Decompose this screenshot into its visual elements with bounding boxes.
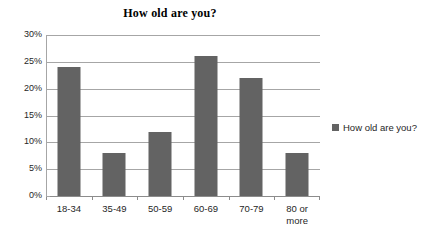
y-axis-tick-label: 30% <box>0 30 42 39</box>
bars-layer <box>46 35 320 196</box>
bar-slot <box>183 35 229 196</box>
x-axis-tick-mark <box>92 196 93 200</box>
x-axis-tick-mark <box>319 196 320 200</box>
y-axis-tick-label: 20% <box>0 84 42 93</box>
x-axis-category-label: 60-69 <box>183 203 229 215</box>
x-axis-category-label-line: more <box>274 215 320 227</box>
bar[interactable] <box>149 132 172 196</box>
x-axis-category-label: 35-49 <box>92 203 138 215</box>
y-axis-tick-mark <box>46 89 50 90</box>
x-axis-category-label: 80 ormore <box>274 203 320 227</box>
y-axis-tick-mark <box>46 35 50 36</box>
x-axis-tick-mark <box>137 196 138 200</box>
y-axis-tick-mark <box>46 169 50 170</box>
y-axis-tick-label: 25% <box>0 57 42 66</box>
y-axis-tick-mark <box>46 196 50 197</box>
legend-label: How old are you? <box>343 122 417 133</box>
bar-slot <box>46 35 92 196</box>
x-axis-tick-mark <box>183 196 184 200</box>
x-axis-category-label-line: 80 or <box>274 203 320 215</box>
y-axis-tick-label: 15% <box>0 111 42 120</box>
y-axis-tick-mark <box>46 62 50 63</box>
y-axis-tick-mark <box>46 116 50 117</box>
x-axis-tick-mark <box>229 196 230 200</box>
x-axis-category-label: 50-59 <box>137 203 183 215</box>
chart-container: How old are you? 0%5%10%15%20%25%30% 18-… <box>0 0 448 248</box>
x-axis-category-label-line: 60-69 <box>183 203 229 215</box>
bar[interactable] <box>103 153 126 196</box>
chart-title: How old are you? <box>0 6 340 21</box>
bar[interactable] <box>194 56 217 196</box>
bar-slot <box>229 35 275 196</box>
x-axis-category-label-line: 35-49 <box>92 203 138 215</box>
x-axis-category-label: 18-34 <box>46 203 92 215</box>
bar[interactable] <box>240 78 263 196</box>
x-axis-tick-mark <box>274 196 275 200</box>
x-axis-category-label-line: 70-79 <box>229 203 275 215</box>
chart-legend: How old are you? <box>332 122 417 133</box>
bar-slot <box>92 35 138 196</box>
y-axis-tick-label: 10% <box>0 137 42 146</box>
y-axis-tick-mark <box>46 142 50 143</box>
x-axis-category-label: 70-79 <box>229 203 275 215</box>
bar-slot <box>274 35 320 196</box>
x-axis-category-label-line: 50-59 <box>137 203 183 215</box>
x-axis-category-labels: 18-3435-4950-5960-6970-7980 ormore <box>46 203 320 243</box>
y-axis-tick-label: 0% <box>0 191 42 200</box>
bar[interactable] <box>57 67 80 196</box>
y-axis-tick-labels: 0%5%10%15%20%25%30% <box>0 35 42 196</box>
legend-swatch-icon <box>332 124 339 131</box>
x-axis-tick-marks <box>46 196 320 201</box>
y-axis-tick-label: 5% <box>0 164 42 173</box>
x-axis-category-label-line: 18-34 <box>46 203 92 215</box>
bar[interactable] <box>286 153 309 196</box>
bar-slot <box>137 35 183 196</box>
